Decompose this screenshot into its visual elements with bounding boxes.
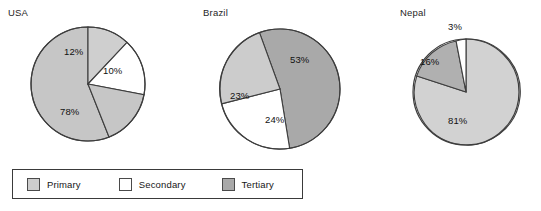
legend: Primary Secondary Tertiary [12, 169, 303, 199]
chart-brazil-label-23: 23% [230, 91, 249, 101]
chart-usa-label-12: 12% [64, 47, 83, 57]
legend-item-secondary[interactable]: Secondary [119, 178, 186, 191]
chart-brazil-title: Brazil [203, 7, 228, 18]
legend-swatch-primary [27, 178, 40, 191]
chart-brazil: Brazil 53% 23% 24% [190, 0, 380, 155]
chart-usa-pie [29, 25, 147, 143]
legend-swatch-secondary [119, 178, 132, 191]
chart-usa-label-78: 78% [60, 107, 79, 117]
chart-nepal-pie [411, 37, 521, 147]
chart-usa-title: USA [8, 7, 28, 18]
chart-usa-pie-svg [29, 25, 147, 143]
legend-item-primary[interactable]: Primary [27, 178, 81, 191]
legend-label-tertiary: Tertiary [242, 179, 274, 190]
legend-swatch-tertiary [222, 178, 235, 191]
chart-nepal-label-3: 3% [448, 22, 462, 32]
chart-nepal-label-81: 81% [448, 116, 467, 126]
legend-item-tertiary[interactable]: Tertiary [222, 178, 274, 191]
chart-nepal-label-16: 16% [420, 57, 439, 67]
pie-chart-figure: USA 12% 10% 78% Brazil [0, 0, 541, 211]
legend-label-primary: Primary [47, 179, 81, 190]
chart-brazil-pie-svg [218, 27, 342, 151]
chart-brazil-label-53: 53% [290, 55, 309, 65]
chart-nepal-pie-svg [411, 37, 521, 147]
chart-brazil-pie [218, 27, 342, 151]
chart-usa: USA 12% 10% 78% [0, 0, 190, 155]
chart-nepal: Nepal 3% 16% 81% [380, 0, 541, 155]
chart-nepal-title: Nepal [400, 7, 426, 18]
chart-usa-label-10: 10% [103, 66, 122, 76]
chart-brazil-label-24: 24% [265, 115, 284, 125]
legend-label-secondary: Secondary [139, 179, 186, 190]
